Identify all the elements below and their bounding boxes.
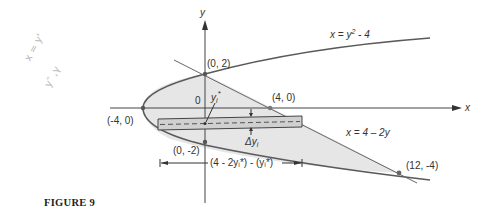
parabola-label: x = y2 - 4	[329, 28, 370, 40]
handwritten-notes: x = y'	[22, 32, 45, 63]
width-dim-label: (4 - 2yᵢ*) - (yᵢ*)	[210, 157, 273, 168]
handwritten-note-1: x = y'	[22, 32, 45, 63]
label-point-4-0: (4, 0)	[272, 92, 295, 103]
x-axis-arrow-icon	[452, 105, 462, 111]
strip-rectangle	[158, 116, 302, 130]
origin-label: 0	[195, 95, 201, 106]
handwritten-notes-2: y″ ,γ	[42, 64, 62, 89]
y-axis-arrow-icon	[202, 20, 208, 30]
label-point-neg4-0: (-4, 0)	[107, 115, 134, 126]
label-point-0-2: (0, 2)	[207, 58, 230, 69]
width-dim-arrow-left-icon	[161, 161, 168, 165]
point-0-2	[203, 72, 207, 76]
figure-caption: FIGURE 9	[44, 197, 95, 208]
label-point-0-neg2: (0, -2)	[173, 145, 200, 156]
y-axis-label: y	[199, 7, 206, 18]
label-point-12-neg4: (12, -4)	[406, 160, 438, 171]
strip-sample-point	[203, 122, 206, 125]
handwritten-note-2: y″ ,γ	[42, 64, 62, 89]
point-4-0	[268, 106, 272, 110]
figure-9-diagram: x = y' y″ ,γ x y 0 x = y2 - 4 x = 4 – 2y…	[0, 0, 492, 217]
point-neg4-0	[141, 106, 145, 110]
point-12-neg4	[397, 171, 402, 176]
delta-yi-label: Δyi	[244, 136, 259, 148]
x-axis-label: x	[464, 102, 471, 113]
line-label: x = 4 – 2y	[345, 127, 391, 138]
point-0-neg2	[203, 140, 207, 144]
